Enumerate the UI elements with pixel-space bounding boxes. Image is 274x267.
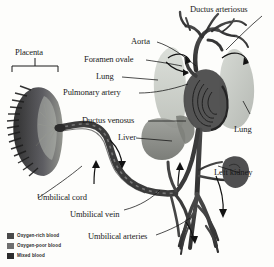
legend-label-oxygen-poor: Oxygen-poor blood [17, 243, 61, 248]
label-umbilical-cord: Umbilical cord [37, 193, 87, 202]
liver-organ [141, 115, 194, 160]
label-liver: Liver [118, 133, 136, 142]
label-umbilical-arteries: Umbilical arteries [88, 232, 147, 241]
legend-swatch-mixed [7, 253, 14, 259]
legend-item: Mixed blood [7, 251, 61, 260]
label-left-kidney: Left kidney [214, 168, 252, 177]
legend-label-mixed: Mixed blood [17, 253, 45, 258]
label-aorta: Aorta [131, 37, 150, 46]
label-lung-left: Lung [96, 72, 114, 81]
label-placenta: Placenta [15, 48, 43, 57]
descending-aorta-vessel [179, 130, 226, 254]
placenta-structure [7, 86, 63, 176]
legend-swatch-oxygen-poor [7, 243, 14, 249]
label-ductus-arteriosus: Ductus arteriosus [190, 5, 248, 14]
placenta-bracket [12, 58, 58, 72]
label-ductus-venosus: Ductus venosus [82, 116, 134, 125]
label-pulmonary-artery: Pulmonary artery [63, 88, 121, 97]
blood-type-legend: Oxygen-rich blood Oxygen-poor blood Mixe… [7, 231, 61, 261]
legend-label-oxygen-rich: Oxygen-rich blood [17, 233, 59, 238]
label-lung-right: Lung [234, 125, 252, 134]
legend-swatch-oxygen-rich [7, 233, 14, 239]
fetal-circulation-figure: Placenta Ductus arteriosus Aorta Foramen… [0, 0, 274, 267]
label-foramen-ovale: Foramen ovale [84, 55, 133, 64]
ductus-arteriosus-vessel [208, 40, 222, 50]
legend-item: Oxygen-rich blood [7, 231, 61, 240]
legend-item: Oxygen-poor blood [7, 241, 61, 250]
label-umbilical-vein: Umbilical vein [70, 210, 119, 219]
